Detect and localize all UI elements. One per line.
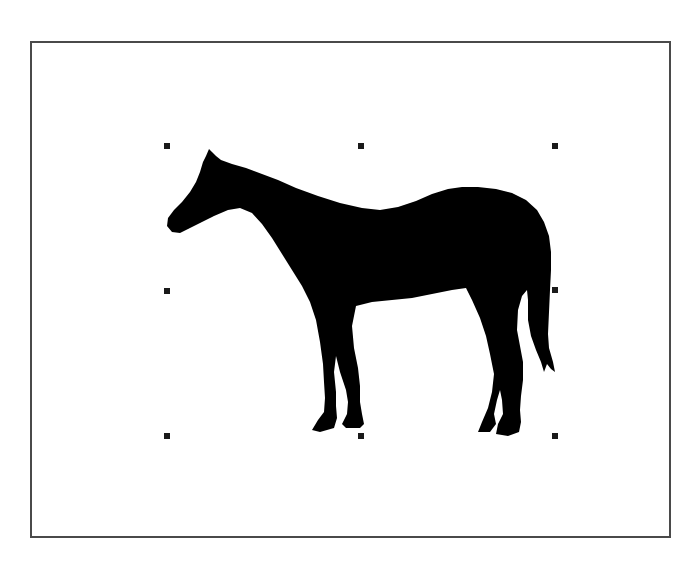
resize-handle-top-left[interactable] (164, 143, 170, 149)
resize-handle-top-right[interactable] (552, 143, 558, 149)
resize-handle-bottom-left[interactable] (164, 433, 170, 439)
resize-handle-bottom-right[interactable] (552, 433, 558, 439)
resize-handle-bottom[interactable] (358, 433, 364, 439)
resize-handle-top[interactable] (358, 143, 364, 149)
resize-handle-right[interactable] (552, 287, 558, 293)
resize-handle-left[interactable] (164, 288, 170, 294)
